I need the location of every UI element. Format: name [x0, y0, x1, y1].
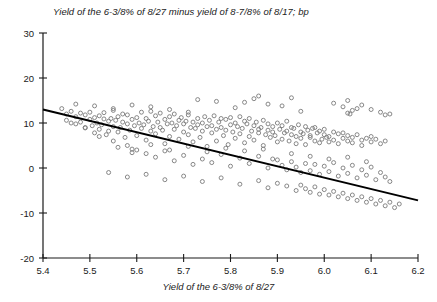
scatter-point	[273, 134, 277, 138]
scatter-point	[320, 137, 324, 141]
scatter-point	[360, 144, 364, 148]
scatter-point	[275, 181, 279, 185]
scatter-point	[266, 122, 270, 126]
scatter-point	[137, 121, 141, 125]
scatter-point	[336, 195, 340, 199]
scatter-point	[280, 137, 284, 141]
scatter-point	[322, 164, 326, 168]
scatter-point	[254, 120, 258, 124]
scatter-point	[121, 112, 125, 116]
scatter-point	[379, 198, 383, 202]
scatter-point	[304, 143, 308, 147]
scatter-point	[280, 104, 284, 108]
scatter-point	[247, 117, 251, 121]
scatter-point	[229, 123, 233, 127]
scatter-point	[168, 148, 172, 152]
scatter-point	[179, 116, 183, 120]
scatter-point	[388, 200, 392, 204]
x-axis-tick-label: 5.6	[130, 265, 143, 276]
scatter-point	[327, 157, 331, 161]
scatter-point	[336, 142, 340, 146]
scatter-point	[332, 161, 336, 165]
scatter-point	[360, 103, 364, 107]
scatter-point	[379, 171, 383, 175]
scatter-point	[163, 178, 167, 182]
scatter-point	[200, 180, 204, 184]
scatter-point	[177, 137, 181, 141]
scatter-point	[350, 193, 354, 197]
scatter-point	[289, 160, 293, 164]
scatter-point	[144, 152, 148, 156]
scatter-point	[318, 192, 322, 196]
scatter-point	[264, 133, 268, 137]
scatter-point	[374, 202, 378, 206]
scatter-point	[238, 115, 242, 119]
scatter-point	[214, 99, 218, 103]
scatter-point	[341, 131, 345, 135]
scatter-point	[79, 120, 83, 124]
scatter-point	[93, 116, 97, 120]
x-axis-tick-label: 6.1	[365, 265, 378, 276]
scatter-point	[64, 118, 68, 122]
scatter-point	[313, 185, 317, 189]
scatter-point	[294, 165, 298, 169]
scatter-point	[294, 142, 298, 146]
scatter-point	[313, 162, 317, 166]
scatter-point	[198, 135, 202, 139]
scatter-point	[125, 122, 129, 126]
scatter-point	[170, 121, 174, 125]
scatter-point	[214, 127, 218, 131]
scatter-point	[130, 103, 134, 107]
scatter-point	[236, 125, 240, 129]
scatter-point	[346, 197, 350, 201]
scatter-point	[83, 113, 87, 117]
scatter-point	[243, 149, 247, 153]
scatter-point	[144, 172, 148, 176]
scatter-point	[224, 146, 228, 150]
scatter-point	[212, 114, 216, 118]
scatter-point	[332, 189, 336, 193]
scatter-point	[364, 160, 368, 164]
scatter-point	[172, 159, 176, 163]
scatter-point	[280, 124, 284, 128]
scatter-point	[135, 134, 139, 138]
scatter-point	[306, 128, 310, 132]
scatter-point	[163, 142, 167, 146]
scatter-point	[214, 139, 218, 143]
scatter-point	[102, 117, 106, 121]
scatter-point	[364, 136, 368, 140]
scatter-point	[261, 118, 265, 122]
scatter-point	[79, 111, 83, 115]
scatter-point	[355, 198, 359, 202]
scatter-point	[203, 115, 207, 119]
scatter-point	[257, 179, 261, 183]
scatter-point	[200, 157, 204, 161]
scatter-point	[219, 126, 223, 130]
scatter-point	[210, 161, 214, 165]
scatter-point	[186, 133, 190, 137]
scatter-point	[289, 96, 293, 100]
scatter-point	[304, 162, 308, 166]
scatter-point	[369, 165, 373, 169]
scatter-point	[97, 135, 101, 139]
scatter-point	[172, 112, 176, 116]
chart-figure: Yield of the 6-3/8% of 8/27 minus yield …	[0, 0, 437, 302]
scatter-point	[154, 132, 158, 136]
scatter-point	[346, 99, 350, 103]
scatter-point	[182, 130, 186, 134]
scatter-point	[191, 140, 195, 144]
scatter-point	[69, 109, 73, 113]
scatter-point	[125, 144, 129, 148]
scatter-point	[299, 109, 303, 113]
y-axis-tick-label: 20	[0, 73, 34, 84]
scatter-point	[210, 131, 214, 135]
scatter-point	[135, 116, 139, 120]
scatter-point	[238, 182, 242, 186]
scatter-point	[163, 117, 167, 121]
scatter-point	[243, 100, 247, 104]
scatter-point	[97, 127, 101, 131]
scatter-point	[383, 204, 387, 208]
scatter-point	[341, 166, 345, 170]
y-axis-tick-label: 30	[0, 28, 34, 39]
scatter-point	[285, 184, 289, 188]
